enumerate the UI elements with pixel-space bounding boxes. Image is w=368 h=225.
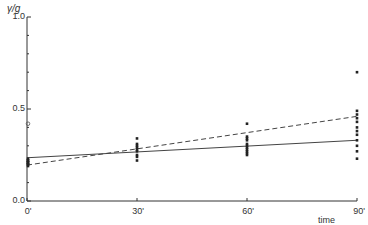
data-point	[136, 150, 139, 153]
data-point	[136, 156, 139, 159]
data-point	[356, 145, 359, 148]
solid-regression-line	[27, 140, 357, 157]
data-point	[356, 133, 359, 136]
data-point	[356, 71, 359, 74]
y-tick-label-05: 0.5	[12, 103, 25, 113]
scatter-chart	[0, 0, 368, 225]
x-tick-label-0: 0'	[25, 206, 32, 216]
y-tick-label-0: 0.0	[12, 195, 25, 205]
data-point	[356, 117, 359, 120]
data-point	[246, 139, 249, 142]
axes	[27, 17, 357, 201]
data-point	[136, 159, 139, 162]
y-tick-label-1: 1.0	[12, 11, 25, 21]
dashed-regression-line	[27, 116, 357, 165]
data-point	[356, 121, 359, 124]
y-ticks	[27, 17, 31, 201]
data-points	[26, 71, 358, 167]
data-point	[356, 139, 359, 142]
data-point	[246, 154, 249, 157]
x-axis-label: time	[318, 215, 335, 225]
data-point	[136, 137, 139, 140]
data-point	[246, 122, 249, 125]
x-tick-label-60: 60'	[242, 206, 254, 216]
data-point	[356, 126, 359, 129]
data-point	[27, 165, 30, 168]
x-tick-label-90: 90'	[353, 206, 365, 216]
data-point	[356, 113, 359, 116]
data-point	[356, 130, 359, 133]
data-point	[356, 150, 359, 153]
data-point	[356, 157, 359, 160]
data-point	[356, 110, 359, 113]
regression-lines	[27, 116, 357, 165]
x-tick-label-30: 30'	[132, 206, 144, 216]
